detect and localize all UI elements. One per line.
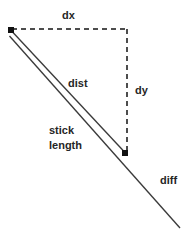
stick-length-label: stick length [49, 123, 82, 153]
dy-label: dy [135, 84, 148, 97]
dx-label: dx [62, 9, 75, 22]
point-a-marker [8, 27, 14, 33]
diagram-canvas: dx dy dist stick length diff [0, 0, 188, 242]
dist-label: dist [68, 77, 88, 90]
stick-length-label-line2: length [49, 138, 82, 153]
point-b-marker [122, 150, 128, 156]
stick-length-label-line1: stick [49, 123, 82, 138]
dist-label-text: dist [68, 77, 88, 89]
stick-long-line [10, 36, 181, 228]
dy-label-text: dy [135, 84, 148, 96]
diff-label-text: diff [160, 174, 177, 186]
dx-label-text: dx [62, 9, 75, 21]
diagram-vector-layer [0, 0, 188, 242]
diff-label: diff [160, 174, 177, 187]
